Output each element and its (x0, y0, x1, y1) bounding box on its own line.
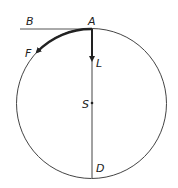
arc-AF (37, 29, 92, 52)
label-B: B (26, 15, 34, 28)
label-D: D (96, 162, 104, 175)
center-point-S (91, 102, 94, 105)
label-F: F (25, 47, 32, 60)
label-A: A (87, 15, 96, 28)
label-L: L (96, 57, 102, 70)
circular-motion-diagram: B A F L S D (0, 0, 178, 188)
label-S: S (82, 98, 89, 111)
